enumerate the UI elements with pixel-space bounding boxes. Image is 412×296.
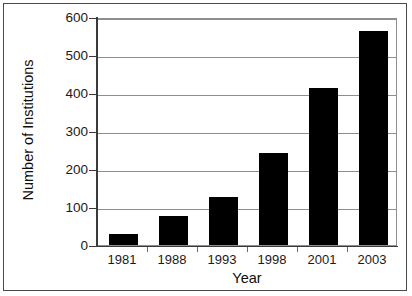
y-tick-mark: [89, 132, 97, 133]
x-tick-label: 2003: [342, 253, 402, 266]
y-tick-label: 600: [42, 11, 88, 25]
chart-figure: Number of Institutions 60050040030020010…: [3, 3, 407, 291]
x-tick-mark: [197, 247, 198, 252]
y-tick-mark: [89, 246, 97, 247]
y-tick-label: 100: [42, 201, 88, 215]
y-axis-tick-labels: 6005004003002001000: [36, 4, 88, 292]
gridline: [98, 95, 396, 96]
x-tick-mark: [347, 247, 348, 252]
bar: [309, 88, 338, 245]
y-tick-mark: [89, 170, 97, 171]
y-tick-label: 300: [42, 125, 88, 139]
bar: [359, 31, 388, 245]
y-tick-label: 500: [42, 49, 88, 63]
y-tick-label: 200: [42, 163, 88, 177]
bar: [259, 153, 288, 245]
gridline: [98, 57, 396, 58]
y-tick-mark: [89, 208, 97, 209]
bar: [209, 197, 238, 245]
x-tick-mark: [247, 247, 248, 252]
gridline: [98, 19, 396, 20]
y-tick-mark: [89, 56, 97, 57]
bar: [159, 216, 188, 245]
y-tick-label: 400: [42, 87, 88, 101]
gridline: [98, 133, 396, 134]
gridline: [98, 171, 396, 172]
x-tick-mark: [147, 247, 148, 252]
y-tick-label: 0: [42, 239, 88, 253]
x-tick-mark: [297, 247, 298, 252]
x-axis-title: Year: [97, 270, 397, 286]
plot-frame: [97, 18, 397, 246]
y-tick-mark: [89, 94, 97, 95]
plot-area: [98, 19, 396, 245]
y-axis-title: Number of Institutions: [20, 30, 36, 230]
bar: [109, 234, 138, 245]
gridline: [98, 209, 396, 210]
y-tick-mark: [89, 18, 97, 19]
